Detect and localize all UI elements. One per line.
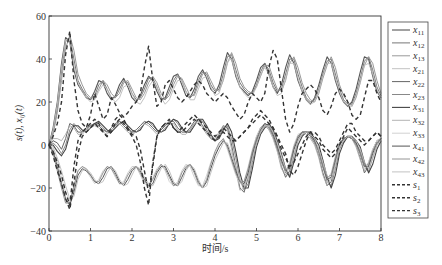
series-line-x42 <box>49 126 381 203</box>
x-tick-label: 5 <box>254 232 259 243</box>
series-line-x33 <box>49 124 381 201</box>
x-tick-label: 8 <box>379 232 384 243</box>
y-tick-label: 0 <box>41 140 46 151</box>
x-tick-label: 2 <box>130 232 135 243</box>
y-tick-label: 20 <box>36 97 46 108</box>
series-line-x13 <box>49 35 381 145</box>
x-tick-label: 1 <box>88 232 93 243</box>
line-chart: 012345678 6040200−20−40 时间/s s(t), xij(t… <box>0 0 442 265</box>
series-layer <box>49 31 381 210</box>
y-tick-label: 40 <box>36 54 46 65</box>
y-axis-label: s(t), xij(t) <box>13 104 26 141</box>
x-tick-label: 0 <box>47 232 52 243</box>
x-tick-label: 4 <box>213 232 218 243</box>
x-tick-label: 7 <box>337 232 342 243</box>
x-tick-label: 6 <box>296 232 301 243</box>
x-axis: 012345678 <box>47 228 384 243</box>
figure-caption <box>110 252 360 265</box>
y-tick-label: 60 <box>36 11 46 22</box>
legend: x11x12x13x21x22x23x31x32x33x41x42x43s1s2… <box>388 22 428 218</box>
y-tick-label: −20 <box>30 183 46 194</box>
x-tick-label: 3 <box>171 232 176 243</box>
y-tick-label: −40 <box>30 226 46 237</box>
